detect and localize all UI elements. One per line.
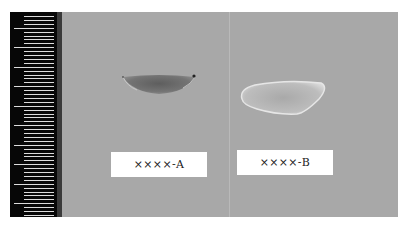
ruler-tick	[24, 39, 54, 40]
ruler-tick	[24, 75, 54, 76]
grain-b-image	[237, 77, 327, 117]
ruler-tick	[24, 180, 54, 181]
ruler-tick	[24, 32, 54, 33]
ruler-tick	[24, 188, 54, 189]
ruler-tick	[24, 16, 54, 17]
ruler-tick	[24, 168, 54, 169]
ruler-tick	[14, 86, 54, 87]
ruler-tick	[24, 176, 54, 177]
ruler-tick	[24, 90, 54, 91]
ruler-tick	[24, 78, 54, 79]
ruler-tick	[24, 24, 54, 25]
ruler-tick	[24, 102, 54, 103]
ruler-tick	[24, 172, 54, 173]
ruler-tick	[14, 184, 54, 185]
ruler-tick	[14, 106, 54, 107]
ruler-tick	[24, 149, 54, 150]
measurement-ruler	[10, 12, 60, 217]
ruler-tick	[24, 98, 54, 99]
ruler-tick	[24, 153, 54, 154]
ruler-tick	[24, 215, 54, 216]
ruler-edge	[57, 12, 62, 217]
sample-label-a: ××××-A	[111, 152, 207, 177]
ruler-tick	[14, 47, 54, 48]
ruler-tick	[14, 145, 54, 146]
ruler-tick	[24, 36, 54, 37]
ruler-tick	[24, 195, 54, 196]
ruler-tick	[24, 156, 54, 157]
sample-label-b-text: ××××-B	[260, 156, 310, 169]
ruler-tick	[24, 137, 54, 138]
ruler-tick	[24, 82, 54, 83]
sample-label-a-text: ××××-A	[134, 158, 184, 171]
ruler-tick	[24, 207, 54, 208]
ruler-tick	[24, 141, 54, 142]
ruler-tick	[24, 59, 54, 60]
grain-a-image	[121, 72, 197, 96]
ruler-tick	[24, 55, 54, 56]
ruler-tick	[24, 133, 54, 134]
ruler-tick	[24, 51, 54, 52]
ruler-tick	[24, 121, 54, 122]
ruler-tick	[24, 117, 54, 118]
ruler-tick	[24, 20, 54, 21]
photo-divider	[229, 12, 230, 217]
ruler-tick	[24, 129, 54, 130]
ruler-tick	[14, 67, 54, 68]
ruler-tick	[14, 164, 54, 165]
ruler-tick	[24, 211, 54, 212]
ruler-tick	[24, 43, 54, 44]
ruler-tick	[14, 28, 54, 29]
specimen-photo: ××××-A ××××-B	[10, 12, 398, 217]
ruler-tick	[24, 160, 54, 161]
ruler-tick	[24, 199, 54, 200]
sample-label-b: ××××-B	[237, 150, 333, 175]
ruler-tick	[24, 71, 54, 72]
ruler-tick	[24, 63, 54, 64]
ruler-tick	[14, 125, 54, 126]
ruler-tick	[24, 94, 54, 95]
ruler-tick	[14, 203, 54, 204]
ruler-tick	[24, 110, 54, 111]
ruler-tick	[24, 192, 54, 193]
ruler-tick	[24, 114, 54, 115]
